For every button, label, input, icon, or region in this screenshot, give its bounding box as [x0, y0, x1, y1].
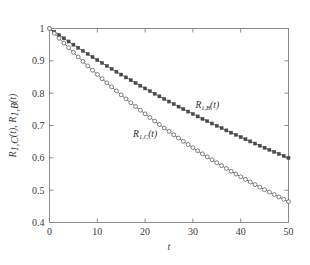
x-axis-title: t — [168, 241, 171, 252]
data-point-marker — [86, 52, 89, 55]
data-point-marker — [234, 133, 237, 136]
data-point-marker — [120, 73, 123, 76]
chart-canvas: 01020304050 0.40.50.60.70.80.91 R1,B(t)R… — [0, 0, 310, 265]
data-point-marker — [234, 172, 238, 176]
data-point-marker — [129, 101, 133, 105]
data-point-marker — [287, 156, 290, 159]
data-point-marker — [224, 167, 228, 171]
data-point-marker — [181, 139, 185, 143]
y-tick-label: 0.8 — [32, 88, 45, 99]
data-point-marker — [110, 85, 114, 89]
data-point-marker — [187, 110, 190, 113]
data-point-marker — [62, 41, 66, 45]
data-point-marker — [215, 161, 219, 165]
data-point-marker — [72, 43, 75, 46]
data-point-marker — [263, 188, 267, 192]
data-point-marker — [267, 190, 271, 194]
data-point-marker — [201, 117, 204, 120]
x-tick-label: 20 — [140, 226, 150, 237]
data-point-marker — [230, 131, 233, 134]
y-tick-label: 0.6 — [32, 152, 45, 163]
data-point-marker — [287, 200, 291, 204]
data-point-marker — [268, 148, 271, 151]
data-point-marker — [143, 112, 147, 116]
data-point-marker — [110, 67, 113, 70]
data-point-marker — [172, 103, 175, 106]
data-point-marker — [210, 158, 214, 162]
data-point-marker — [167, 129, 171, 133]
data-point-marker — [191, 146, 195, 150]
data-point-marker — [172, 133, 176, 137]
data-point-marker — [153, 92, 156, 95]
data-point-marker — [48, 27, 52, 31]
data-point-marker — [105, 81, 109, 85]
x-tick-label: 40 — [236, 226, 246, 237]
figure-container: 01020304050 0.40.50.60.70.80.91 R1,B(t)R… — [0, 0, 310, 265]
data-point-marker — [100, 77, 104, 81]
data-point-marker — [239, 175, 243, 179]
data-point-marker — [57, 36, 61, 40]
data-point-marker — [148, 116, 152, 120]
data-point-marker — [148, 90, 151, 93]
data-point-marker — [229, 169, 233, 173]
data-point-marker — [139, 84, 142, 87]
data-point-marker — [138, 108, 142, 112]
data-point-marker — [114, 89, 118, 93]
data-point-marker — [177, 105, 180, 108]
data-point-marker — [77, 46, 80, 49]
data-point-marker — [71, 50, 75, 54]
data-point-marker — [244, 138, 247, 141]
data-point-marker — [91, 68, 95, 72]
data-point-marker — [86, 64, 90, 68]
data-point-marker — [129, 79, 132, 82]
data-point-marker — [167, 100, 170, 103]
data-point-marker — [182, 108, 185, 111]
data-point-marker — [244, 177, 248, 181]
data-point-marker — [157, 123, 161, 127]
data-point-marker — [101, 61, 104, 64]
data-point-marker — [119, 93, 123, 97]
data-point-marker — [62, 37, 65, 40]
data-point-marker — [124, 97, 128, 101]
y-tick-label: 0.5 — [32, 185, 45, 196]
data-point-marker — [258, 185, 262, 189]
data-point-marker — [205, 155, 209, 159]
x-axis-title-text: t — [168, 241, 171, 252]
data-point-marker — [134, 81, 137, 84]
y-tick-label: 0.9 — [32, 55, 45, 66]
data-point-marker — [162, 126, 166, 130]
data-point-marker — [210, 122, 213, 125]
data-point-marker — [282, 197, 286, 201]
data-point-marker — [134, 105, 138, 109]
data-point-marker — [124, 76, 127, 79]
data-point-marker — [253, 142, 256, 145]
data-point-marker — [177, 136, 181, 140]
data-point-marker — [273, 150, 276, 153]
data-point-marker — [153, 119, 157, 123]
data-point-marker — [277, 152, 280, 155]
data-point-marker — [215, 124, 218, 127]
data-point-marker — [76, 55, 80, 59]
data-point-marker — [91, 55, 94, 58]
x-tick-label: 50 — [284, 226, 294, 237]
data-point-marker — [249, 140, 252, 143]
data-point-marker — [201, 152, 205, 156]
data-point-marker — [220, 127, 223, 130]
data-point-marker — [163, 97, 166, 100]
data-point-marker — [186, 143, 190, 147]
data-point-marker — [81, 49, 84, 52]
data-point-marker — [67, 40, 70, 43]
data-point-marker — [225, 129, 228, 132]
data-point-marker — [96, 58, 99, 61]
y-tick-label: 1 — [40, 23, 45, 34]
data-point-marker — [282, 154, 285, 157]
data-point-marker — [158, 95, 161, 98]
data-point-marker — [277, 195, 281, 199]
data-point-marker — [105, 64, 108, 67]
data-point-marker — [115, 70, 118, 73]
data-point-marker — [67, 46, 71, 50]
data-point-marker — [248, 180, 252, 184]
x-tick-label: 30 — [188, 226, 198, 237]
data-point-marker — [258, 144, 261, 147]
data-point-marker — [191, 112, 194, 115]
